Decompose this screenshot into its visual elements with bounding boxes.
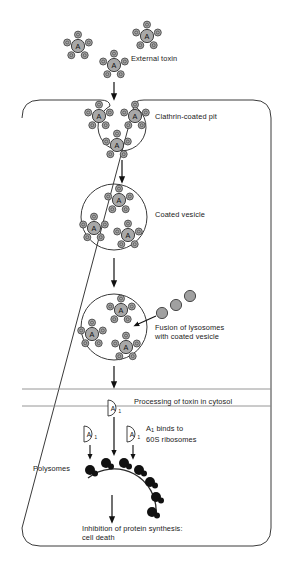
svg-text:A: A [87,431,92,438]
label-outcome-line1: Inhibition of protein synthesis: [82,524,183,533]
label-binds-line1: A1 binds to [146,424,197,435]
svg-text:A: A [111,405,116,412]
ribosome [145,477,158,488]
svg-text:1: 1 [118,409,121,414]
lysosome [170,299,181,310]
toxin-molecule [85,101,114,129]
label-ribosome-binding: A1 binds to 60S ribosomes [146,424,197,445]
binds-a-suffix: binds to [154,424,183,433]
polysome-group [85,458,164,518]
fused-vesicle-membrane [81,294,147,360]
label-outcome: Inhibition of protein synthesis: cell de… [82,524,183,543]
label-lysosome-fusion: Fusion of lysosomes with coated vesicle [155,323,224,342]
ribosome [151,492,164,503]
label-polysomes: Polysomes [33,464,70,473]
toxin-molecule [112,332,141,360]
svg-text:A: A [130,431,135,438]
a1-fragment-group: A 1 A 1 A 1 [84,400,140,457]
label-clathrin-coated-pit: Clathrin-coated pit [155,112,217,121]
a1-fragment: A 1 [108,400,121,416]
a1-fragment: A 1 [84,426,97,442]
lysosome [184,290,195,301]
svg-text:1: 1 [137,435,140,440]
label-fusion-line1: Fusion of lysosomes [155,323,224,332]
label-binds-line2: 60S ribosomes [146,435,197,444]
ribosome [147,507,160,518]
label-coated-vesicle: Coated vesicle [155,210,205,219]
clathrin-coated-pit-group [85,101,150,158]
ribosome [85,465,98,476]
toxin-molecule [64,31,93,59]
lysosome [156,307,167,318]
external-toxin-group [64,21,162,78]
svg-text:1: 1 [94,435,97,440]
ribosome [101,458,114,469]
ribosome [119,458,132,469]
a1-fragment: A 1 [127,426,140,442]
label-external-toxin: External toxin [131,54,177,63]
coated-vesicle-group [80,184,147,250]
label-outcome-line2: cell death [82,533,183,542]
toxin-molecule [114,220,143,248]
toxin-molecule [78,319,107,347]
pathway-svg: A [0,0,293,579]
toxin-pathway-figure: A [0,0,293,579]
toxin-molecule [105,185,134,213]
toxin-molecule [121,101,150,129]
toxin-molecule [133,21,162,49]
label-fusion-line2: with coated vesicle [155,332,224,341]
label-toxin-processing: Processing of toxin in cytosol [134,397,232,406]
toxin-molecule [100,50,129,78]
